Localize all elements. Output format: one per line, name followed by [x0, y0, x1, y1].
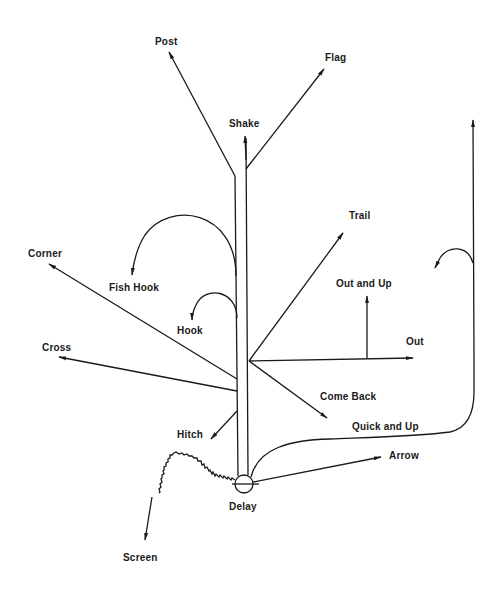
label-come-back: Come Back [320, 391, 376, 402]
label-arrow: Arrow [389, 450, 419, 461]
screen-route [159, 452, 235, 493]
label-trail: Trail [349, 210, 371, 221]
fish-hook-route [132, 215, 236, 276]
stem-right-line [246, 138, 248, 475]
label-delay: Delay [229, 501, 257, 512]
label-flag: Flag [325, 52, 346, 63]
quick-hook-route [435, 249, 473, 268]
trail-route [249, 233, 343, 361]
hitch-route [211, 411, 237, 439]
arrow-route [253, 457, 381, 482]
label-hitch: Hitch [177, 429, 203, 440]
label-out: Out [406, 336, 424, 347]
hook-route [192, 293, 237, 320]
label-fish-hook: Fish Hook [109, 282, 159, 293]
stem-left-line [235, 176, 238, 476]
screen-route-leg [145, 497, 152, 540]
label-quick-and-up: Quick and Up [352, 421, 419, 432]
label-screen: Screen [123, 552, 158, 563]
label-cross: Cross [42, 342, 71, 353]
post-route [169, 52, 235, 176]
label-hook: Hook [177, 325, 203, 336]
come-back-route [249, 361, 327, 418]
label-out-and-up: Out and Up [336, 278, 392, 289]
label-corner: Corner [28, 248, 62, 259]
out-route [249, 358, 413, 361]
label-shake: Shake [229, 118, 259, 129]
label-post: Post [155, 36, 177, 47]
